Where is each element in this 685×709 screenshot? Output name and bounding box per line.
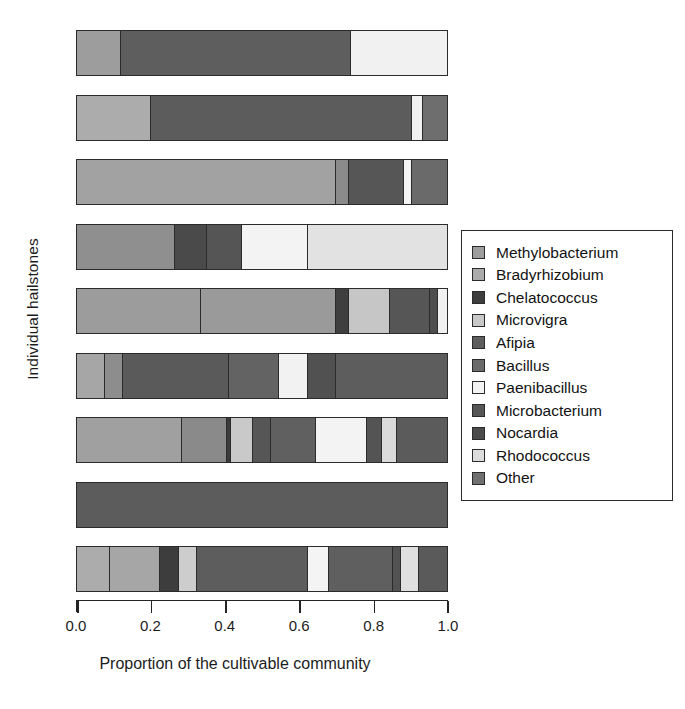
- bar-segment: [419, 547, 447, 591]
- bar-segment: [412, 96, 423, 140]
- bar-segment: [336, 354, 447, 398]
- x-axis-tick: [77, 601, 79, 613]
- x-axis-label: Proportion of the cultivable community: [0, 655, 470, 673]
- bar-segment: [77, 96, 151, 140]
- x-axis-tick-label: 0.4: [195, 617, 255, 634]
- legend-swatch-icon: [472, 449, 485, 462]
- bar-segment: [329, 547, 394, 591]
- x-axis-tick: [151, 601, 153, 613]
- x-axis: [76, 600, 448, 612]
- bar-segment: [77, 31, 121, 75]
- legend-item: Methylobacterium: [472, 241, 666, 264]
- bar-segment: [121, 31, 350, 75]
- bar-segment: [110, 547, 160, 591]
- x-axis-tick-label: 0.2: [120, 617, 180, 634]
- bar-segment: [438, 289, 447, 333]
- bar-segment: [123, 354, 228, 398]
- stacked-bar-row: [76, 546, 448, 592]
- stacked-bar-row: [76, 30, 448, 76]
- legend-item-label: Afipia: [496, 335, 535, 351]
- bar-segment: [151, 96, 412, 140]
- stacked-bar-chart-figure: Individual hailstones Proportion of the …: [0, 0, 685, 709]
- legend-item-label: Microbacterium: [496, 403, 602, 419]
- legend-item: Paenibacillus: [472, 377, 666, 400]
- x-axis-tick: [447, 601, 449, 613]
- legend-item: Other: [472, 467, 666, 490]
- legend-item-label: Nocardia: [496, 425, 558, 441]
- bar-segment: [197, 547, 308, 591]
- legend-swatch-icon: [472, 291, 485, 304]
- legend-item: Bacillus: [472, 354, 666, 377]
- bar-segment: [77, 483, 447, 527]
- legend-item: Chelatococcus: [472, 286, 666, 309]
- legend-swatch-icon: [472, 359, 485, 372]
- legend-item-label: Bacillus: [496, 358, 549, 374]
- stacked-bar-row: [76, 95, 448, 141]
- bar-segment: [231, 418, 253, 462]
- bar-segment: [77, 225, 175, 269]
- bar-segment: [279, 354, 309, 398]
- x-axis-tick-label: 1.0: [418, 617, 478, 634]
- bar-segment: [77, 418, 182, 462]
- bar-segment: [336, 160, 349, 204]
- y-axis-label: Individual hailstones: [24, 179, 42, 439]
- legend-item: Afipia: [472, 331, 666, 354]
- legend-item-label: Chelatococcus: [496, 290, 598, 306]
- legend-swatch-icon: [472, 404, 485, 417]
- legend-item: Microvigra: [472, 309, 666, 332]
- legend-swatch-icon: [472, 381, 485, 394]
- bar-segment: [77, 547, 110, 591]
- bar-segment: [207, 225, 242, 269]
- legend-swatch-icon: [472, 427, 485, 440]
- legend-item-label: Other: [496, 470, 535, 486]
- legend-item-label: Rhodococcus: [496, 448, 590, 464]
- x-axis-tick-label: 0.6: [269, 617, 329, 634]
- bar-segment: [401, 547, 420, 591]
- bar-segment: [179, 547, 198, 591]
- bar-segment: [182, 418, 226, 462]
- x-axis-tick: [299, 601, 301, 613]
- x-axis-tick: [225, 601, 227, 613]
- legend-swatch-icon: [472, 472, 485, 485]
- bar-segment: [382, 418, 397, 462]
- bar-segment: [77, 354, 105, 398]
- stacked-bar-row: [76, 224, 448, 270]
- legend: MethylobacteriumBradyrhizobiumChelatococ…: [461, 230, 673, 501]
- bar-segment: [393, 547, 400, 591]
- bar-segment: [390, 289, 431, 333]
- stacked-bar-row: [76, 353, 448, 399]
- stacked-bar-row: [76, 482, 448, 528]
- bar-segment: [397, 418, 447, 462]
- x-axis-tick: [374, 601, 376, 613]
- legend-item: Microbacterium: [472, 399, 666, 422]
- bar-segment: [430, 289, 437, 333]
- x-axis-tick-label: 0.8: [344, 617, 404, 634]
- bar-segment: [308, 547, 328, 591]
- legend-swatch-icon: [472, 268, 485, 281]
- bar-segment: [404, 160, 411, 204]
- legend-swatch-icon: [472, 314, 485, 327]
- plot-area: [76, 28, 448, 593]
- bar-segment: [308, 354, 336, 398]
- bar-segment: [229, 354, 279, 398]
- stacked-bar-row: [76, 417, 448, 463]
- legend-swatch-icon: [472, 246, 485, 259]
- bar-segment: [308, 225, 447, 269]
- legend-item: Nocardia: [472, 422, 666, 445]
- bar-segment: [242, 225, 309, 269]
- bar-segment: [201, 289, 336, 333]
- bar-segment: [349, 289, 390, 333]
- bar-segment: [175, 225, 206, 269]
- bar-segment: [423, 96, 447, 140]
- legend-item: Bradyrhizobium: [472, 264, 666, 287]
- legend-item: Rhodococcus: [472, 444, 666, 467]
- bar-segment: [412, 160, 447, 204]
- stacked-bar-row: [76, 288, 448, 334]
- bar-segment: [336, 289, 349, 333]
- bar-segment: [349, 160, 405, 204]
- legend-item-label: Microvigra: [496, 312, 567, 328]
- x-axis-tick-label: 0.0: [46, 617, 106, 634]
- bar-segment: [105, 354, 124, 398]
- bar-segment: [160, 547, 179, 591]
- bar-segment: [271, 418, 315, 462]
